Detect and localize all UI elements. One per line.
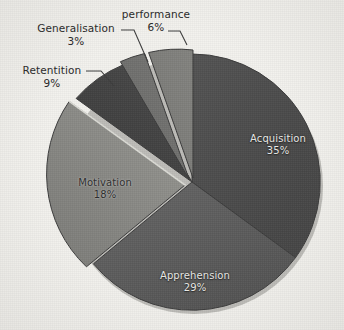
slice-label-apprehension: Apprehension 29% — [140, 270, 250, 294]
slice-label-performance: performance 6% — [112, 8, 200, 34]
slice-label-retentition-name: Retentition — [12, 64, 92, 77]
pie-chart-screenshot: Acquisition 35% Apprehension 29% Motivat… — [0, 0, 344, 330]
slice-label-generalisation-value: 3% — [24, 35, 128, 48]
slice-label-performance-name: performance — [112, 8, 200, 21]
pie-chart-figure: Acquisition 35% Apprehension 29% Motivat… — [0, 0, 344, 330]
slice-label-retentition-value: 9% — [12, 77, 92, 90]
slice-label-acquisition-value: 35% — [232, 145, 324, 157]
slice-label-apprehension-value: 29% — [140, 282, 250, 294]
slice-label-motivation-value: 18% — [57, 189, 153, 201]
slice-label-apprehension-name: Apprehension — [140, 270, 250, 282]
slice-label-acquisition-name: Acquisition — [232, 133, 324, 145]
slice-label-performance-value: 6% — [112, 21, 200, 34]
slice-label-motivation-name: Motivation — [57, 177, 153, 189]
slice-label-acquisition: Acquisition 35% — [232, 133, 324, 157]
slice-label-retentition: Retentition 9% — [12, 64, 92, 90]
slice-label-motivation: Motivation 18% — [57, 177, 153, 201]
